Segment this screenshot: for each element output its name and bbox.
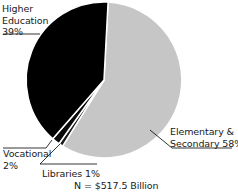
leader-vocational bbox=[3, 140, 52, 148]
pie-chart bbox=[0, 0, 238, 196]
label-elementary-line1: Elementary & bbox=[170, 126, 234, 137]
total-annotation: N = $517.5 Billion bbox=[74, 180, 158, 191]
label-higher-education-pct: 39% bbox=[2, 26, 23, 37]
label-elementary-line2: Secondary 58% bbox=[170, 138, 238, 149]
label-vocational-line1: Vocational bbox=[3, 148, 51, 159]
label-higher-education-line2: Education bbox=[2, 15, 48, 26]
label-higher-education-line1: Higher bbox=[2, 3, 33, 14]
label-libraries: Libraries 1% bbox=[42, 168, 100, 179]
label-vocational-pct: 2% bbox=[3, 160, 18, 171]
